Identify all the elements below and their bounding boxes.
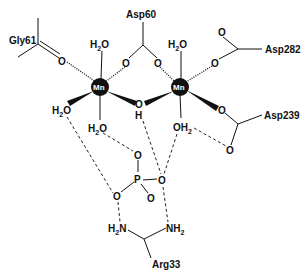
asp282-group: O Asp282 O <box>186 27 301 82</box>
manganese-active-site-diagram: Gly61 O Asp60 O O H2O H2O O Asp282 O O <box>0 0 305 276</box>
asp239-oxygen-1: O <box>218 105 226 116</box>
arg33-h2n: H2N <box>108 223 126 236</box>
phosphate-oxygen-top: O <box>134 150 142 161</box>
bridging-hydrogen: H <box>135 110 142 121</box>
mn2-water-top: H2O <box>168 39 187 52</box>
mn1-water-top: H2O <box>90 39 109 52</box>
gly61-group: Gly61 O <box>9 18 96 82</box>
phosphate-oxygen-left: O <box>113 191 121 202</box>
gly61-label: Gly61 <box>9 35 37 46</box>
phosphorus-atom: P <box>134 174 141 185</box>
asp60-label: Asp60 <box>126 9 156 20</box>
gly61-oxygen: O <box>58 56 66 67</box>
phosphate-oxygen-bottom: O <box>147 193 155 204</box>
arg33-nh2: NH2 <box>166 223 184 236</box>
bridging-oxygen: O <box>135 99 143 110</box>
structure-canvas: Gly61 O Asp60 O O H2O H2O O Asp282 O O <box>0 0 305 276</box>
asp239-oxygen-2: O <box>226 145 234 156</box>
asp282-oxygen: O <box>211 58 219 69</box>
phosphate-group: O P O O O <box>113 150 166 204</box>
asp60-group: Asp60 O O <box>105 9 175 82</box>
arg33-group: H2N NH2 Arg33 <box>108 223 184 270</box>
arg33-label: Arg33 <box>152 259 181 270</box>
asp60-oxygen-1: O <box>122 58 130 69</box>
mn2-label: Mn <box>173 83 185 92</box>
asp282-label: Asp282 <box>265 44 301 55</box>
lower-waters: H2O H2O OH2 <box>52 105 192 136</box>
asp239-label: Asp239 <box>264 110 300 121</box>
mn1-label: Mn <box>93 83 105 92</box>
phosphate-oxygen-right: O <box>158 175 166 186</box>
metal-core: Mn Mn O H <box>67 78 189 121</box>
mn2-water-bottom: OH2 <box>173 122 192 135</box>
asp282-oxygen-top: O <box>218 27 226 38</box>
mn1-water-left: H2O <box>52 105 71 118</box>
asp239-group: O Asp239 O <box>186 90 300 156</box>
top-waters: H2O H2O <box>90 39 187 79</box>
